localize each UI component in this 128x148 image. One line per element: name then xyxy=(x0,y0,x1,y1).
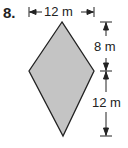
upper-height-label: 8 m xyxy=(94,40,116,54)
kite-diagram xyxy=(0,0,128,148)
lower-height-label: 12 m xyxy=(92,96,121,110)
width-label: 12 m xyxy=(44,5,73,19)
kite-shape xyxy=(29,22,94,136)
